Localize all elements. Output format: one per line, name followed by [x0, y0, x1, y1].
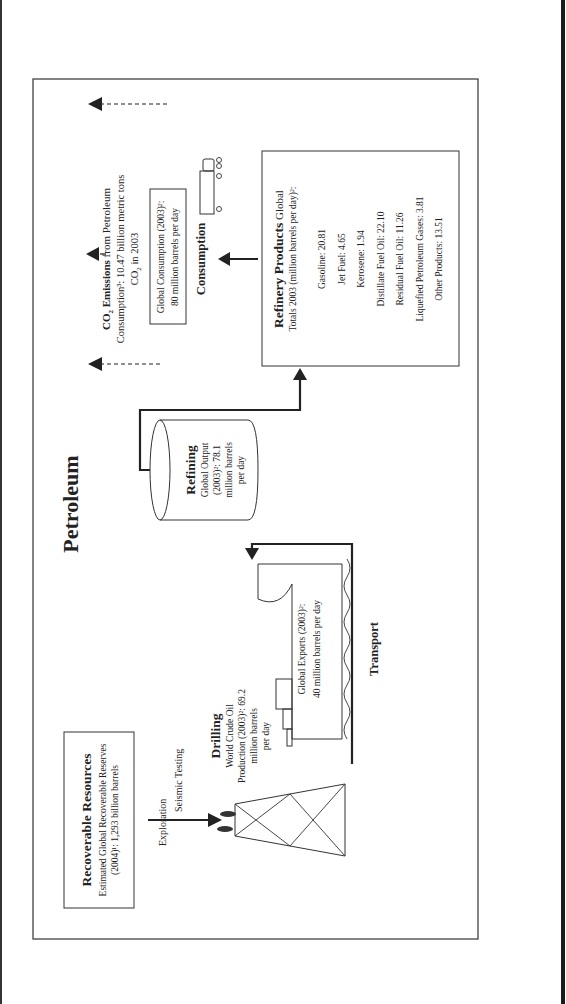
refining-line2: (2003)²: 78.1	[212, 445, 223, 495]
transport-arrowhead	[245, 548, 259, 560]
product-distillate-fuel-oil: Distillate Fuel Oil: 22.10	[376, 211, 386, 306]
product-kerosene: Kerosene: 1.94	[356, 230, 366, 288]
product-residual-fuel-oil: Residual Fuel Oil: 11.26	[395, 212, 405, 305]
refinery-products-subheading: Totals 2003 (million barrels per day)²:	[288, 187, 299, 332]
refining-arrowhead	[293, 368, 307, 380]
oil-rig-icon	[217, 784, 345, 856]
refinery-products-box: Refinery Products Global Totals 2003 (mi…	[262, 151, 459, 366]
product-other: Other Products: 13.51	[434, 217, 444, 301]
product-gasoline: Gasoline: 20.81	[317, 229, 327, 289]
refining-line1: Global Output	[200, 442, 210, 497]
drilling-line1: World Crude Oil	[225, 704, 235, 768]
recoverable-reserves-line1: Estimated Global Recoverable Reserves	[98, 743, 108, 896]
drilling-line2: Production (2003)²: 69.2	[237, 689, 248, 783]
co2-heading: CO2 Emissions from Petroleum	[100, 188, 115, 330]
recoverable-reserves-line2: (2004)¹: 1,293 billion barrels	[110, 765, 121, 875]
diagram-title: Petroleum	[58, 455, 83, 552]
drilling-line4: per day	[261, 722, 271, 750]
seismic-testing-label: Seismic Testing	[173, 749, 184, 812]
emission-arrow-right	[88, 97, 168, 111]
recoverable-resources-heading: Recoverable Resources	[79, 754, 94, 887]
co2-line2: Consumption³: 10.47 billion metric tons	[115, 175, 126, 344]
refining-line3: million barrels	[224, 442, 234, 498]
co2-line3: CO2 in 2003	[129, 233, 143, 286]
exploration-label: Exploration	[157, 799, 168, 846]
drilling-heading: Drilling	[208, 713, 223, 758]
consumption-arrow	[218, 252, 258, 266]
transport-label: Transport	[367, 621, 381, 676]
truck-icon	[200, 158, 222, 215]
refinery-products-heading: Refinery Products Global	[271, 190, 286, 328]
product-lpg: Liquefied Petroleum Gases: 3.81	[415, 196, 425, 321]
consumption-line1: Global Consumption (2003)²:	[156, 201, 167, 314]
recoverable-resources-box: Recoverable Resources Estimated Global R…	[64, 732, 134, 908]
consumption-label: Consumption	[194, 223, 208, 295]
drilling-line3: million barrels	[249, 708, 259, 764]
global-consumption-box: Global Consumption (2003)²: 80 million b…	[150, 189, 186, 324]
exports-line2: 40 million barrels per day	[312, 600, 322, 698]
refining-heading: Refining	[183, 445, 198, 495]
petroleum-diagram: Petroleum Recoverable Resources Estimate…	[0, 0, 566, 1004]
refining-line4: per day	[236, 456, 246, 484]
consumption-line2: 80 million barrels per day	[170, 208, 180, 306]
emission-arrow-left	[88, 357, 160, 371]
product-jet-fuel: Jet Fuel: 4.65	[337, 233, 347, 285]
exports-line1: Global Exports (2003)²:	[297, 604, 308, 695]
